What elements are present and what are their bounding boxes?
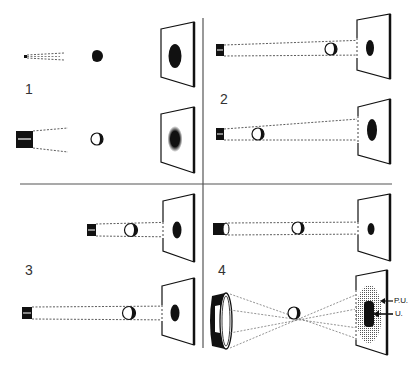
ball-icon bbox=[123, 307, 136, 320]
ball-icon bbox=[89, 50, 103, 62]
panel-1 bbox=[16, 22, 194, 173]
fuzzy-shadow bbox=[168, 126, 183, 152]
umbra-label: U. bbox=[395, 310, 403, 318]
panel-3 bbox=[22, 194, 194, 345]
extended-light-source bbox=[16, 128, 68, 152]
shadow bbox=[366, 40, 374, 56]
screen bbox=[163, 194, 194, 262]
shadow bbox=[171, 305, 180, 322]
panel-number-3: 3 bbox=[25, 263, 33, 277]
panel-number-2: 2 bbox=[220, 92, 228, 106]
shadow bbox=[368, 223, 375, 235]
screen bbox=[356, 270, 387, 355]
light-rays bbox=[230, 288, 372, 348]
screen bbox=[161, 22, 194, 87]
light-source bbox=[87, 224, 96, 236]
ball-icon bbox=[125, 224, 138, 237]
panel-2 bbox=[216, 14, 390, 164]
screen bbox=[161, 107, 194, 173]
panel-number-4: 4 bbox=[218, 263, 226, 277]
ball-icon bbox=[292, 222, 304, 234]
small-lamp bbox=[213, 223, 229, 235]
penumbra-label: P.U. bbox=[394, 297, 408, 305]
sharp-shadow bbox=[169, 44, 182, 68]
ball-icon bbox=[288, 307, 300, 319]
shadow bbox=[367, 119, 377, 141]
screen bbox=[358, 99, 390, 164]
shadow bbox=[173, 222, 182, 239]
screen bbox=[162, 278, 194, 345]
ball-icon bbox=[252, 128, 264, 140]
ball-icon bbox=[91, 133, 103, 145]
large-lamp bbox=[210, 293, 232, 349]
ball-icon bbox=[325, 43, 337, 55]
panel-4 bbox=[210, 194, 393, 355]
screen bbox=[357, 14, 390, 79]
light-source bbox=[216, 128, 224, 140]
umbra-region bbox=[364, 301, 374, 327]
panel-number-1: 1 bbox=[25, 82, 33, 96]
screen bbox=[358, 194, 390, 261]
panel-dividers bbox=[20, 18, 392, 348]
light-source bbox=[216, 44, 224, 56]
light-source bbox=[22, 307, 32, 319]
point-light-source bbox=[24, 53, 64, 60]
